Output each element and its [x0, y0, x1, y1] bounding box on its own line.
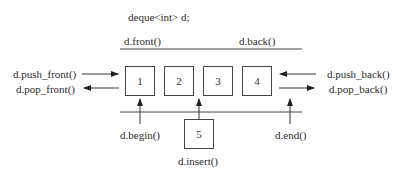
front-label: d.front()	[124, 35, 161, 47]
insert-label: d.insert()	[178, 155, 218, 167]
begin-label: d.begin()	[120, 129, 160, 141]
pop-back-label: d.pop_back()	[329, 83, 387, 95]
element-box-2: 2	[164, 66, 194, 96]
element-box-1: 1	[125, 66, 155, 96]
push-front-label: d.push_front()	[13, 68, 76, 80]
element-box-3: 3	[203, 66, 233, 96]
deque-declaration: deque<int> d;	[128, 11, 190, 23]
push-back-label: d.push_back()	[327, 68, 390, 80]
pop-front-label: d.pop_front()	[16, 83, 75, 95]
end-label: d.end()	[275, 129, 306, 141]
back-label: d.back()	[239, 35, 275, 47]
element-box-4: 4	[242, 66, 272, 96]
insert-element-box: 5	[184, 119, 214, 149]
